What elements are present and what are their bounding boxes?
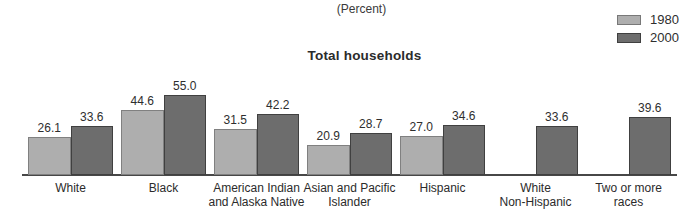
bar-value-2000-white: 33.6 [62, 110, 122, 124]
bar-value-2000-white: 33.6 [527, 110, 587, 124]
legend: 1980 2000 [617, 12, 679, 48]
bar-2000-two-or-more [629, 117, 672, 175]
bar-1980-white [28, 137, 71, 175]
bar-2000-black [164, 95, 207, 175]
legend-label-2000: 2000 [650, 30, 679, 45]
bar-2000-white [536, 126, 579, 175]
legend-item-1980: 1980 [617, 12, 679, 27]
unit-label: (Percent) [26, 2, 697, 16]
bar-2000-american-indian [257, 114, 300, 175]
bar-value-2000-hispanic: 34.6 [434, 109, 494, 123]
bar-chart: (Percent) 1980 2000 Total households 26.… [0, 0, 697, 216]
category-label-two-or-more: Two or more races [554, 181, 697, 209]
bar-2000-asian-and-pacific [350, 133, 393, 175]
legend-item-2000: 2000 [617, 30, 679, 45]
bar-value-2000-two-or-more: 39.6 [620, 101, 680, 115]
bar-1980-hispanic [400, 136, 443, 175]
bar-value-2000-american-indian: 42.2 [248, 98, 308, 112]
bar-value-2000-black: 55.0 [155, 79, 215, 93]
bar-1980-asian-and-pacific [307, 145, 350, 175]
bar-1980-american-indian [214, 129, 257, 175]
chart-title: Total households [32, 48, 697, 63]
legend-label-1980: 1980 [650, 12, 679, 27]
bar-2000-white [71, 126, 114, 175]
legend-swatch-1980 [617, 15, 641, 25]
bar-2000-hispanic [443, 125, 486, 175]
legend-swatch-2000 [617, 33, 641, 43]
bar-1980-black [121, 110, 164, 175]
